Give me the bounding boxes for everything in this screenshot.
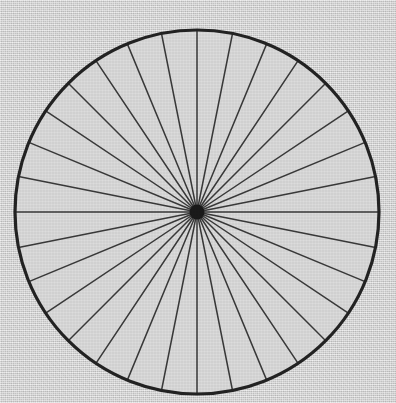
spoked-wheel-figure [0, 0, 396, 403]
figure-canvas [0, 0, 396, 403]
wheel-hub [190, 205, 205, 220]
